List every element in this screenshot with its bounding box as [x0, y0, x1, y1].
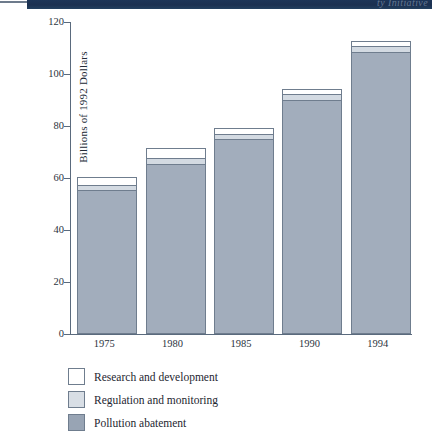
- banner-title: ty Initiative: [377, 0, 428, 8]
- bar-segment-1985-research[interactable]: [214, 128, 274, 136]
- bar-segment-1990-regulation[interactable]: [282, 94, 342, 102]
- chart-legend: Research and developmentRegulation and m…: [68, 365, 368, 434]
- x-tick-label-1990: 1990: [275, 339, 343, 350]
- legend-label-regulation: Regulation and monitoring: [94, 394, 218, 406]
- legend-label-research: Research and development: [94, 371, 218, 383]
- bar-segment-1990-abate[interactable]: [282, 100, 342, 334]
- plot-area: [70, 22, 412, 334]
- bar-segment-1985-abate[interactable]: [214, 139, 274, 334]
- y-tick-label-60: 60: [30, 173, 64, 184]
- y-tick-80: [64, 126, 70, 127]
- page-header-banner: ty Initiative: [0, 0, 432, 9]
- x-tick-label-1985: 1985: [207, 339, 275, 350]
- bar-segment-1975-research[interactable]: [77, 177, 137, 186]
- bar-1994[interactable]: [351, 42, 411, 335]
- y-axis-tick-labels: 020406080100120: [28, 22, 64, 334]
- y-tick-label-20: 20: [30, 277, 64, 288]
- y-tick-40: [64, 230, 70, 231]
- bar-segment-1980-regulation[interactable]: [146, 158, 206, 166]
- y-tick-label-80: 80: [30, 121, 64, 132]
- x-tick-label-1994: 1994: [344, 339, 412, 350]
- y-tick-label-40: 40: [30, 225, 64, 236]
- bar-segment-1994-regulation[interactable]: [351, 46, 411, 54]
- x-axis-tick-labels: 19751980198519901994: [70, 339, 412, 355]
- bar-segment-1975-abate[interactable]: [77, 190, 137, 334]
- legend-swatch-regulation: [68, 391, 85, 408]
- x-axis-line: [70, 334, 412, 335]
- y-tick-label-100: 100: [30, 69, 64, 80]
- legend-item-research[interactable]: Research and development: [68, 365, 368, 388]
- legend-swatch-research: [68, 368, 85, 385]
- legend-item-regulation[interactable]: Regulation and monitoring: [68, 388, 368, 411]
- bar-1990[interactable]: [282, 90, 342, 334]
- x-tick-label-1975: 1975: [70, 339, 138, 350]
- y-tick-60: [64, 178, 70, 179]
- bar-segment-1994-abate[interactable]: [351, 52, 411, 334]
- legend-label-abate: Pollution abatement: [94, 417, 186, 429]
- y-tick-label-0: 0: [30, 329, 64, 340]
- y-tick-120: [64, 22, 70, 23]
- bar-1985[interactable]: [214, 129, 274, 334]
- y-tick-0: [64, 334, 70, 335]
- y-axis-line: [70, 22, 71, 335]
- bar-1980[interactable]: [146, 149, 206, 334]
- bar-1975[interactable]: [77, 178, 137, 334]
- legend-swatch-abate: [68, 414, 85, 431]
- x-tick-label-1980: 1980: [138, 339, 206, 350]
- bar-segment-1990-research[interactable]: [282, 89, 342, 95]
- y-tick-20: [64, 282, 70, 283]
- legend-item-abate[interactable]: Pollution abatement: [68, 411, 368, 434]
- banner-fill: [27, 0, 432, 9]
- y-tick-label-120: 120: [30, 17, 64, 28]
- y-tick-100: [64, 74, 70, 75]
- bar-segment-1980-abate[interactable]: [146, 164, 206, 334]
- bar-segment-1994-research[interactable]: [351, 41, 411, 47]
- bar-segment-1980-research[interactable]: [146, 148, 206, 158]
- chart-figure: Billions of 1992 Dollars 020406080100120…: [0, 9, 432, 447]
- banner-left-rule: [0, 1, 28, 3]
